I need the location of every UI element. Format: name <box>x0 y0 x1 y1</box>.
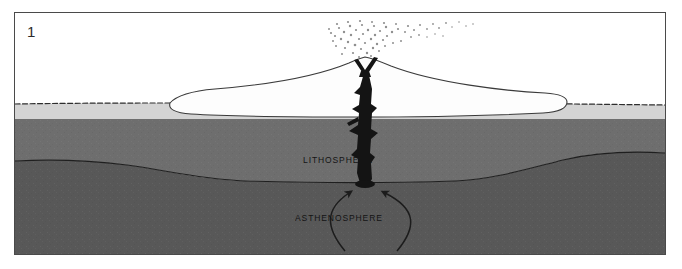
lithosphere-label: LITHOSPHERE <box>303 155 373 165</box>
figure-root: LITHOSPHERE ASTHENOSPHERE 1 <box>0 0 682 269</box>
asthenosphere-label: ASTHENOSPHERE <box>295 213 383 223</box>
geology-cross-section: LITHOSPHERE ASTHENOSPHERE 1 <box>15 13 665 254</box>
magma-source-pool <box>355 180 375 188</box>
diagram-frame: LITHOSPHERE ASTHENOSPHERE 1 <box>14 12 666 255</box>
panel-number: 1 <box>27 23 35 40</box>
volcano-vent-throat <box>359 71 371 77</box>
